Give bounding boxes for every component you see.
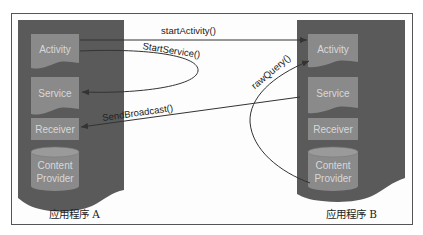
app-b-receiver-box	[308, 118, 358, 140]
app-a-content-provider-cylinder	[31, 147, 79, 191]
app-b-label: 应用程序 B	[326, 206, 377, 221]
app-a-label: 应用程序 A	[49, 206, 100, 221]
app-a-receiver-box	[31, 118, 79, 140]
app-b-content-provider-cylinder	[308, 147, 358, 191]
app-b-panel	[297, 20, 405, 202]
start-activity-label: startActivity()	[161, 25, 216, 36]
